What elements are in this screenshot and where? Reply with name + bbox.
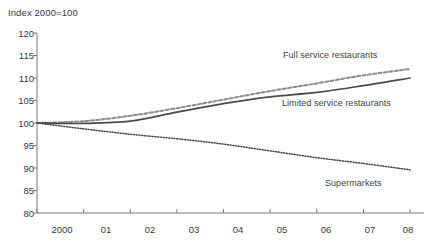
plot-area bbox=[0, 0, 432, 245]
price-index-line-chart: Index 2000=100 120 115 110 105 100 95 90… bbox=[0, 0, 432, 245]
cut-off-caption bbox=[0, 238, 432, 245]
